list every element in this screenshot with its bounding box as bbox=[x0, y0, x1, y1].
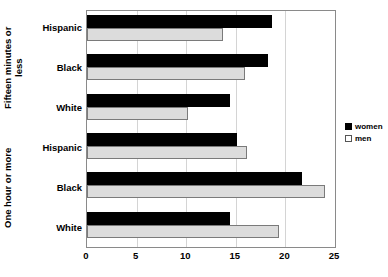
bar-chart: Fifteen minutes or less One hour or more… bbox=[0, 0, 388, 277]
bar-women-hispanic-15min bbox=[87, 15, 272, 28]
bar-women-hispanic-1hr bbox=[87, 133, 237, 146]
legend-label-men: men bbox=[355, 134, 371, 143]
bar-women-white-1hr bbox=[87, 212, 230, 225]
bar-women-black-15min bbox=[87, 54, 268, 67]
category-label-hispanic-15min: Hispanic bbox=[24, 22, 82, 33]
bar-men-hispanic-1hr bbox=[87, 146, 247, 159]
chart-legend: women men bbox=[345, 122, 388, 146]
legend-item-women: women bbox=[345, 122, 388, 131]
legend-swatch-women-icon bbox=[345, 123, 352, 130]
gridline bbox=[285, 11, 286, 247]
x-tick-label: 10 bbox=[180, 250, 191, 262]
bar-men-white-15min bbox=[87, 107, 188, 120]
plot-area bbox=[86, 10, 336, 248]
x-tick-label: 20 bbox=[279, 250, 290, 262]
bar-men-hispanic-15min bbox=[87, 28, 223, 41]
legend-label-women: women bbox=[355, 122, 383, 131]
legend-swatch-men-icon bbox=[345, 135, 352, 142]
group-label-one-hour-or-more: One hour or more bbox=[2, 128, 24, 248]
bar-men-black-1hr bbox=[87, 185, 325, 198]
bar-women-white-15min bbox=[87, 94, 230, 107]
bar-men-black-15min bbox=[87, 67, 245, 80]
gridline bbox=[335, 11, 336, 247]
x-tick-label: 0 bbox=[83, 250, 88, 262]
group-axis: Fifteen minutes or less One hour or more bbox=[2, 8, 24, 248]
x-axis: 0510152025 bbox=[86, 250, 336, 270]
category-label-hispanic-1hr: Hispanic bbox=[24, 142, 82, 153]
x-tick-label: 15 bbox=[230, 250, 241, 262]
bar-women-black-1hr bbox=[87, 172, 302, 185]
legend-item-men: men bbox=[345, 134, 388, 143]
category-label-white-1hr: White bbox=[24, 222, 82, 233]
bar-men-white-1hr bbox=[87, 225, 279, 238]
gridline bbox=[236, 11, 237, 247]
category-label-black-15min: Black bbox=[24, 62, 82, 73]
category-axis: Hispanic Black White Hispanic Black Whit… bbox=[24, 8, 84, 248]
category-label-black-1hr: Black bbox=[24, 182, 82, 193]
group-label-fifteen-minutes-or-less: Fifteen minutes or less bbox=[2, 8, 24, 128]
category-label-white-15min: White bbox=[24, 102, 82, 113]
x-tick-label: 25 bbox=[329, 250, 340, 262]
x-tick-label: 5 bbox=[133, 250, 138, 262]
